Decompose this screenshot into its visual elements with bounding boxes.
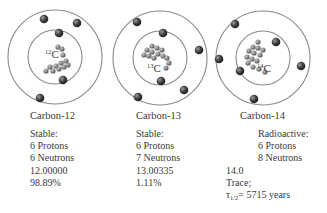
atomic-mass: 14.0 <box>226 165 290 177</box>
outer-orbit <box>216 11 310 105</box>
neutrons: 8 Neutrons <box>258 152 309 164</box>
outer-orbit <box>113 11 207 105</box>
carbon-14-title: Carbon-14 <box>240 110 285 121</box>
carbon-12-title: Carbon-12 <box>30 110 75 121</box>
abundance: 1.11% <box>136 177 180 189</box>
electron <box>297 62 306 71</box>
inner-orbit <box>236 31 290 85</box>
electron <box>236 67 245 76</box>
atomic-mass: 12.00000 <box>30 165 74 177</box>
electron <box>55 29 64 38</box>
carbon-12-symbol: 12C <box>45 48 59 60</box>
electron <box>40 15 49 24</box>
carbon-14-info-top: Radioactive: 6 Protons 8 Neutrons <box>258 128 309 165</box>
carbon-14-info-bottom: 14.0 Trace; τ1/2= 5715 years <box>226 165 290 205</box>
electron <box>133 18 142 27</box>
electron <box>159 29 168 38</box>
status: Stable: <box>30 128 74 140</box>
carbon-13-info: Stable: 6 Protons 7 Neutrons 13.00335 1.… <box>136 128 180 189</box>
electron <box>195 46 204 55</box>
atomic-mass: 13.00335 <box>136 165 180 177</box>
electron <box>134 93 143 102</box>
protons: 6 Protons <box>136 140 180 152</box>
carbon-14-atom <box>215 11 310 105</box>
status: Radioactive: <box>258 128 309 140</box>
electron <box>73 19 82 28</box>
electron <box>231 20 240 29</box>
status: Stable: <box>136 128 180 140</box>
half-life: τ1/2= 5715 years <box>226 189 290 204</box>
carbon-13-atom <box>113 11 207 105</box>
electron <box>250 95 259 104</box>
carbon-13-symbol: 13C <box>147 62 161 74</box>
abundance: 98.89% <box>30 177 74 189</box>
carbon-12-info: Stable: 6 Protons 6 Neutrons 12.00000 98… <box>30 128 74 189</box>
abundance: Trace; <box>226 177 290 189</box>
carbon-14-symbol: 14C <box>257 62 271 74</box>
neutrons: 7 Neutrons <box>136 152 180 164</box>
electron <box>36 94 45 103</box>
electron <box>272 38 281 47</box>
protons: 6 Protons <box>258 140 309 152</box>
carbon-13-title: Carbon-13 <box>136 110 181 121</box>
electron <box>180 86 189 95</box>
protons: 6 Protons <box>30 140 74 152</box>
neutrons: 6 Neutrons <box>30 152 74 164</box>
electron <box>215 55 224 64</box>
electron <box>157 77 166 86</box>
electron <box>59 76 68 85</box>
